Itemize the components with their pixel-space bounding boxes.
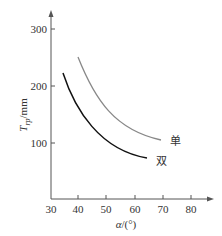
y-axis-label: Trp/mm: [17, 98, 32, 132]
y-axis-arrow-icon: [49, 10, 54, 17]
y-tick-label: 300: [31, 23, 48, 35]
y-tick-label: 100: [31, 137, 48, 149]
x-tick-label: 50: [101, 203, 113, 215]
x-axis-label: α/(°): [116, 218, 137, 231]
series-double-label: 双: [156, 155, 167, 168]
y-tick-label: 200: [31, 80, 48, 92]
series-single-line: [78, 57, 161, 140]
x-tick-label: 70: [158, 203, 170, 215]
x-tick-label: 60: [130, 203, 142, 215]
series-double-line: [63, 73, 147, 158]
x-tick-label: 80: [186, 203, 198, 215]
x-tick-label: 40: [73, 203, 85, 215]
x-axis-arrow-icon: [207, 197, 214, 202]
series-single-label: 单: [170, 135, 181, 148]
x-ticks: 30 40 50 60 70 80: [46, 195, 198, 215]
x-tick-label: 30: [46, 203, 58, 215]
chart: 100 200 300 30 40 50 60 70 80 α/(°) Trp/…: [0, 0, 222, 236]
